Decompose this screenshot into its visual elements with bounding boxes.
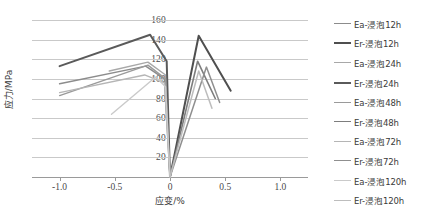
legend-label: Er-浸泡24h [354, 77, 399, 89]
legend-color-swatch [334, 180, 351, 181]
series-line [60, 65, 170, 177]
legend-label: Er-浸泡12h [354, 37, 399, 49]
x-axis-tick-label: -0.5 [107, 182, 122, 192]
series-line [170, 61, 215, 177]
legend-color-swatch [334, 160, 351, 161]
legend-item[interactable]: Ea-浸泡72h [334, 132, 437, 152]
x-axis-tick-label: 1.0 [274, 182, 286, 192]
legend-label: Ea-浸泡12h [354, 18, 401, 30]
x-axis-tick-label: 0.5 [219, 182, 231, 192]
legend-color-swatch [334, 200, 351, 201]
legend-label: Ea-浸泡72h [354, 135, 401, 147]
legend-item[interactable]: Ea-浸泡48h [334, 92, 437, 112]
x-axis-title: 应变/% [32, 194, 308, 207]
legend-item[interactable]: Er-浸泡120h [334, 190, 437, 210]
x-axis-tick-label: -1.0 [52, 182, 67, 192]
x-axis-tick-label: 0 [168, 182, 173, 192]
legend-label: Ea-浸泡48h [354, 96, 401, 108]
legend-color-swatch [334, 62, 351, 63]
legend-label: Ea-浸泡120h [354, 175, 406, 187]
legend-color-swatch [334, 42, 351, 44]
legend-item[interactable]: Ea-浸泡24h [334, 53, 437, 73]
legend-item[interactable]: Ea-浸泡120h [334, 171, 437, 191]
legend-item[interactable]: Er-浸泡12h [334, 34, 437, 54]
legend-color-swatch [334, 141, 351, 142]
series-line [170, 36, 231, 177]
legend-item[interactable]: Er-浸泡24h [334, 73, 437, 93]
legend-label: Er-浸泡120h [354, 194, 404, 206]
legend: Ea-浸泡12hEr-浸泡12hEa-浸泡24hEr-浸泡24hEa-浸泡48h… [334, 14, 437, 210]
plot-area [32, 20, 308, 177]
legend-color-swatch [334, 121, 351, 122]
legend-item[interactable]: Er-浸泡48h [334, 112, 437, 132]
legend-color-swatch [334, 23, 351, 24]
legend-item[interactable]: Er-浸泡72h [334, 151, 437, 171]
stress-strain-chart: 应力/MPa 20406080100120140160 -1.0-0.500.5… [0, 0, 437, 222]
legend-label: Er-浸泡48h [354, 116, 399, 128]
legend-color-swatch [334, 82, 351, 84]
series-line [111, 77, 170, 177]
x-axis-tick-labels: -1.0-0.500.51.0 [32, 180, 308, 194]
series-line [60, 66, 170, 177]
legend-item[interactable]: Ea-浸泡12h [334, 14, 437, 34]
legend-color-swatch [334, 102, 351, 103]
series-line [109, 62, 170, 177]
series-lines [32, 20, 308, 177]
series-line [60, 35, 170, 177]
legend-label: Ea-浸泡24h [354, 57, 401, 69]
legend-label: Er-浸泡72h [354, 155, 399, 167]
